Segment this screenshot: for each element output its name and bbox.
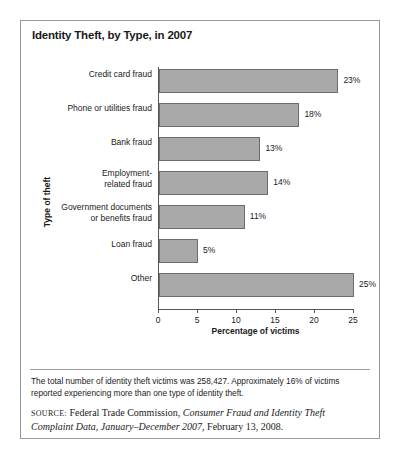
chart-title: Identity Theft, by Type, in 2007 xyxy=(32,29,192,41)
category-label: Government documentsor benefits fraud xyxy=(2,202,152,223)
x-axis-line: 0510152025 xyxy=(158,309,353,310)
bar xyxy=(159,137,260,161)
plot-area: Type of theft Credit card fraud23%Phone … xyxy=(21,67,379,367)
source-kicker: SOURCE: xyxy=(31,409,67,418)
figure-source: SOURCE: Federal Trade Commission, Consum… xyxy=(31,406,369,433)
bar-row: Government documentsor benefits fraud11% xyxy=(159,205,353,229)
bar-value-label: 18% xyxy=(304,109,321,119)
bar-value-label: 14% xyxy=(273,177,290,187)
x-axis-tick-label: 0 xyxy=(148,315,168,325)
x-axis-title: Percentage of victims xyxy=(158,326,353,336)
bar-row: Bank fraud13% xyxy=(159,137,353,161)
x-axis-tick xyxy=(275,309,276,313)
bar xyxy=(159,171,268,195)
bar-row: Phone or utilities fraud18% xyxy=(159,103,353,127)
source-text-1: Federal Trade Commission, xyxy=(67,407,183,418)
bar xyxy=(159,205,245,229)
bar-value-label: 11% xyxy=(250,211,266,221)
figure-container: Identity Theft, by Type, in 2007 Type of… xyxy=(20,20,380,439)
x-axis-tick-label: 20 xyxy=(304,315,324,325)
x-axis-tick-label: 5 xyxy=(187,315,207,325)
x-axis-tick xyxy=(197,309,198,313)
category-label: Other xyxy=(2,273,152,284)
x-axis-tick xyxy=(236,309,237,313)
bar xyxy=(159,69,338,93)
x-axis-tick-label: 10 xyxy=(226,315,246,325)
category-label: Credit card fraud xyxy=(2,69,152,80)
bar-value-label: 25% xyxy=(359,279,376,289)
bars-region: Credit card fraud23%Phone or utilities f… xyxy=(158,67,353,309)
x-axis-tick-label: 25 xyxy=(343,315,363,325)
x-axis-tick xyxy=(314,309,315,313)
figure-note: The total number of identity theft victi… xyxy=(31,376,369,399)
bar-row: Loan fraud5% xyxy=(159,239,353,263)
bar xyxy=(159,239,198,263)
x-axis-tick xyxy=(353,309,354,313)
bar-row: Employment-related fraud14% xyxy=(159,171,353,195)
category-label: Bank fraud xyxy=(2,137,152,148)
bar-value-label: 13% xyxy=(265,143,282,153)
bar-rows: Credit card fraud23%Phone or utilities f… xyxy=(159,67,353,309)
category-label: Phone or utilities fraud xyxy=(2,103,152,114)
x-axis-tick xyxy=(158,309,159,313)
x-axis-tick-label: 15 xyxy=(265,315,285,325)
category-label: Employment-related fraud xyxy=(2,168,152,189)
bar xyxy=(159,103,299,127)
category-label: Loan fraud xyxy=(2,239,152,250)
bar-row: Credit card fraud23% xyxy=(159,69,353,93)
note-divider xyxy=(30,369,370,370)
bar-value-label: 5% xyxy=(203,245,215,255)
bar-value-label: 23% xyxy=(343,75,360,85)
bar xyxy=(159,273,354,297)
bar-row: Other25% xyxy=(159,273,353,297)
source-text-2: , February 13, 2008. xyxy=(202,421,283,432)
